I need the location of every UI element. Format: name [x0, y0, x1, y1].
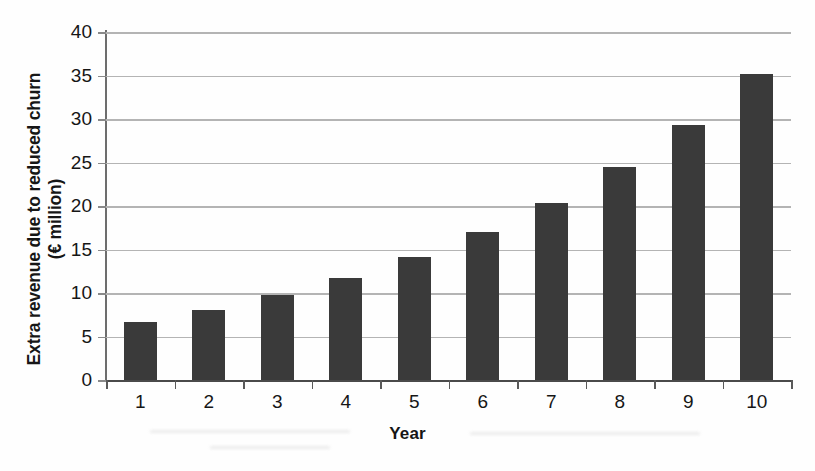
x-tick-label: 1 [110, 391, 170, 413]
x-tick-label: 2 [179, 391, 239, 413]
gridline [106, 119, 791, 121]
x-tick-mark [723, 380, 725, 389]
y-tick-mark [98, 163, 106, 165]
bar [740, 74, 773, 380]
bar [535, 203, 568, 380]
x-tick-mark [586, 380, 588, 389]
x-tick-label: 7 [521, 391, 581, 413]
bar-chart-figure: Extra revenue due to reduced churn (€ mi… [0, 0, 815, 471]
y-tick-label: 20 [46, 195, 92, 217]
y-tick-label: 10 [46, 282, 92, 304]
gridline [106, 32, 791, 34]
x-tick-label: 9 [658, 391, 718, 413]
x-tick-mark [654, 380, 656, 389]
x-tick-mark [380, 380, 382, 389]
y-tick-label: 40 [46, 21, 92, 43]
x-tick-label: 5 [384, 391, 444, 413]
x-tick-mark [791, 380, 793, 389]
bar [398, 257, 431, 380]
y-axis-tick-labels: 0510152025303540 [0, 0, 92, 471]
y-tick-label: 15 [46, 239, 92, 261]
y-tick-mark [98, 119, 106, 121]
y-tick-label: 0 [46, 369, 92, 391]
y-tick-mark [98, 337, 106, 339]
y-tick-label: 30 [46, 108, 92, 130]
y-tick-mark [98, 293, 106, 295]
y-tick-mark [98, 32, 106, 34]
x-tick-label: 8 [590, 391, 650, 413]
x-tick-mark [312, 380, 314, 389]
scan-artifact [470, 432, 700, 435]
bar [124, 322, 157, 380]
bar [672, 125, 705, 380]
y-tick-mark [98, 380, 106, 382]
x-tick-label: 10 [727, 391, 787, 413]
y-tick-mark [98, 206, 106, 208]
x-tick-mark [106, 380, 108, 389]
gridline [106, 76, 791, 78]
bar [329, 278, 362, 380]
x-tick-label: 3 [247, 391, 307, 413]
y-tick-label: 25 [46, 152, 92, 174]
plot-area [106, 32, 791, 380]
bar [603, 167, 636, 380]
scan-artifact [150, 430, 350, 433]
y-tick-mark [98, 76, 106, 78]
bar [192, 310, 225, 380]
x-tick-label: 6 [453, 391, 513, 413]
x-tick-mark [517, 380, 519, 389]
x-tick-mark [449, 380, 451, 389]
x-tick-mark [175, 380, 177, 389]
scan-artifact [210, 446, 330, 449]
bar [261, 295, 294, 380]
x-tick-mark [243, 380, 245, 389]
x-tick-label: 4 [316, 391, 376, 413]
y-tick-label: 35 [46, 65, 92, 87]
bar [466, 232, 499, 380]
y-tick-mark [98, 250, 106, 252]
y-tick-label: 5 [46, 326, 92, 348]
